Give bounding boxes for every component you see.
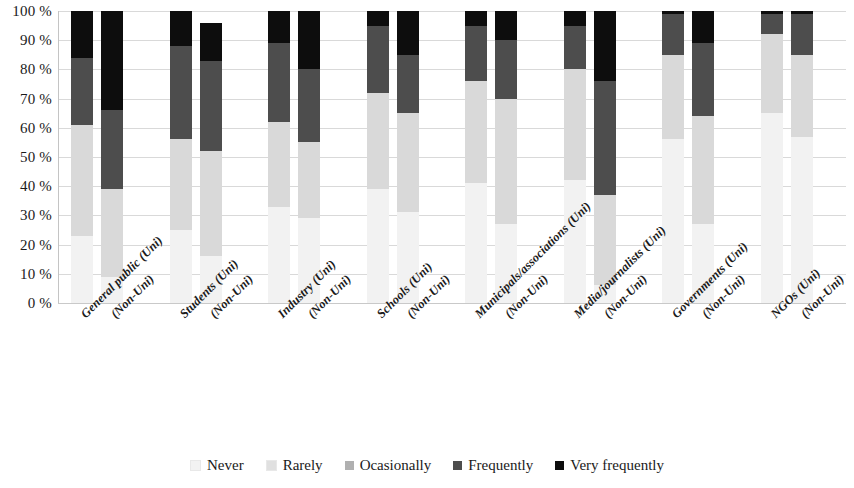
bar-general-public-uni bbox=[71, 11, 93, 303]
bar-students-uni bbox=[170, 11, 192, 303]
legend-item: Very frequently bbox=[555, 458, 664, 473]
bar-segment-never bbox=[71, 236, 93, 303]
bar-segment-frequently bbox=[367, 26, 389, 93]
bar-segment-rarely bbox=[268, 122, 290, 207]
bar-segment-very-frequently bbox=[495, 11, 517, 40]
stacked-bar-chart: 0 %10 %20 %30 %40 %50 %60 %70 %80 %90 %1… bbox=[0, 0, 854, 488]
bar-segment-frequently bbox=[101, 110, 123, 189]
bar-segment-frequently bbox=[71, 58, 93, 125]
bar-segment-frequently bbox=[662, 14, 684, 55]
bar-segment-very-frequently bbox=[761, 11, 783, 14]
bar-municipals-associations-non-uni bbox=[495, 11, 517, 303]
bar-general-public-non-uni bbox=[101, 11, 123, 303]
bar-students-non-uni bbox=[200, 11, 222, 303]
bar-segment-rarely bbox=[662, 55, 684, 140]
y-axis-tick-label: 90 % bbox=[20, 33, 52, 48]
chart-legend: NeverRarelyOcasionallyFrequentlyVery fre… bbox=[0, 458, 854, 473]
bar-segment-never bbox=[465, 183, 487, 303]
bar-segment-rarely bbox=[791, 55, 813, 137]
bar-segment-rarely bbox=[465, 81, 487, 183]
bar-segment-rarely bbox=[101, 189, 123, 277]
bar-segment-frequently bbox=[594, 81, 616, 195]
bar-segment-rarely bbox=[761, 34, 783, 113]
legend-swatch-icon bbox=[555, 461, 564, 470]
bar-segment-rarely bbox=[692, 116, 714, 224]
bar-segment-rarely bbox=[200, 151, 222, 256]
y-axis-tick-label: 80 % bbox=[20, 62, 52, 77]
bar-segment-very-frequently bbox=[397, 11, 419, 55]
legend-label: Very frequently bbox=[570, 458, 664, 473]
bar-segment-never bbox=[662, 139, 684, 303]
bar-segment-very-frequently bbox=[101, 11, 123, 110]
legend-label: Rarely bbox=[283, 458, 323, 473]
y-axis-tick-label: 70 % bbox=[20, 91, 52, 106]
bar-segment-very-frequently bbox=[465, 11, 487, 26]
legend-item: Rarely bbox=[266, 458, 323, 473]
bar-segment-very-frequently bbox=[594, 11, 616, 81]
legend-swatch-icon bbox=[190, 460, 201, 471]
legend-item: Frequently bbox=[453, 458, 533, 473]
legend-swatch-icon bbox=[453, 461, 462, 470]
bar-segment-very-frequently bbox=[71, 11, 93, 58]
bar-segment-frequently bbox=[761, 14, 783, 34]
bar-segment-rarely bbox=[397, 113, 419, 212]
bar-segment-rarely bbox=[170, 139, 192, 230]
y-axis-tick-label: 40 % bbox=[20, 179, 52, 194]
bar-schools-uni bbox=[367, 11, 389, 303]
bar-segment-frequently bbox=[298, 69, 320, 142]
bar-segment-rarely bbox=[71, 125, 93, 236]
bar-segment-very-frequently bbox=[564, 11, 586, 26]
bar-segment-rarely bbox=[367, 93, 389, 189]
legend-label: Frequently bbox=[468, 458, 533, 473]
legend-label: Never bbox=[207, 458, 244, 473]
bar-segment-frequently bbox=[465, 26, 487, 81]
bar-segment-very-frequently bbox=[662, 11, 684, 14]
bar-segment-frequently bbox=[268, 43, 290, 122]
bar-segment-very-frequently bbox=[791, 11, 813, 14]
bar-governments-uni bbox=[662, 11, 684, 303]
x-axis: General public (Uni)(Non-Uni)Students (U… bbox=[58, 303, 846, 433]
bar-segment-rarely bbox=[564, 69, 586, 180]
legend-swatch-icon bbox=[345, 461, 354, 470]
y-axis-tick-label: 30 % bbox=[20, 208, 52, 223]
bar-segment-very-frequently bbox=[200, 23, 222, 61]
bar-segment-frequently bbox=[791, 14, 813, 55]
legend-item: Never bbox=[190, 458, 244, 473]
bar-segment-very-frequently bbox=[692, 11, 714, 43]
bar-segment-never bbox=[761, 113, 783, 303]
bar-segment-frequently bbox=[692, 43, 714, 116]
y-axis-tick-label: 50 % bbox=[20, 150, 52, 165]
bar-segment-frequently bbox=[397, 55, 419, 113]
bar-schools-non-uni bbox=[397, 11, 419, 303]
bar-media-journalists-uni bbox=[564, 11, 586, 303]
bar-segment-very-frequently bbox=[268, 11, 290, 43]
y-axis-tick-label: 20 % bbox=[20, 237, 52, 252]
bar-segment-rarely bbox=[495, 99, 517, 225]
y-axis-tick-label: 10 % bbox=[20, 266, 52, 281]
bar-segment-never bbox=[367, 189, 389, 303]
bar-governments-non-uni bbox=[692, 11, 714, 303]
y-axis-tick-label: 0 % bbox=[28, 296, 52, 311]
legend-swatch-icon bbox=[266, 460, 277, 471]
y-axis-tick-label: 60 % bbox=[20, 120, 52, 135]
bar-ngos-non-uni bbox=[791, 11, 813, 303]
bar-segment-very-frequently bbox=[367, 11, 389, 26]
bar-segment-never bbox=[268, 207, 290, 303]
legend-label: Ocasionally bbox=[360, 458, 432, 473]
bar-segment-rarely bbox=[298, 142, 320, 218]
y-axis-tick-label: 100 % bbox=[12, 4, 52, 19]
bar-segment-frequently bbox=[200, 61, 222, 152]
bar-municipals-associations-uni bbox=[465, 11, 487, 303]
legend-item: Ocasionally bbox=[345, 458, 432, 473]
bar-industry-uni bbox=[268, 11, 290, 303]
bar-segment-very-frequently bbox=[170, 11, 192, 46]
bar-segment-frequently bbox=[564, 26, 586, 70]
y-axis: 0 %10 %20 %30 %40 %50 %60 %70 %80 %90 %1… bbox=[0, 0, 56, 315]
bar-segment-never bbox=[170, 230, 192, 303]
bar-segment-frequently bbox=[495, 40, 517, 98]
bar-media-journalists-non-uni bbox=[594, 11, 616, 303]
bar-industry-non-uni bbox=[298, 11, 320, 303]
bar-ngos-uni bbox=[761, 11, 783, 303]
bar-segment-frequently bbox=[170, 46, 192, 139]
bar-segment-very-frequently bbox=[298, 11, 320, 69]
